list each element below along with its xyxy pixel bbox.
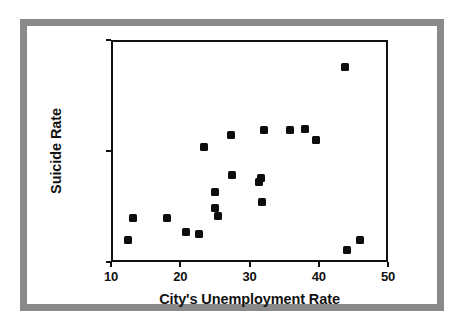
plot-canvas: 1020304050 01020 City's Unemployment Rat… <box>0 0 465 333</box>
x-axis-title: City's Unemployment Rate <box>111 291 388 307</box>
scatter-plot-figure: 1020304050 01020 City's Unemployment Rat… <box>0 0 465 333</box>
y-axis-title: Suicide Rate <box>48 108 64 194</box>
y-tick-labels: 01020 <box>0 0 465 333</box>
